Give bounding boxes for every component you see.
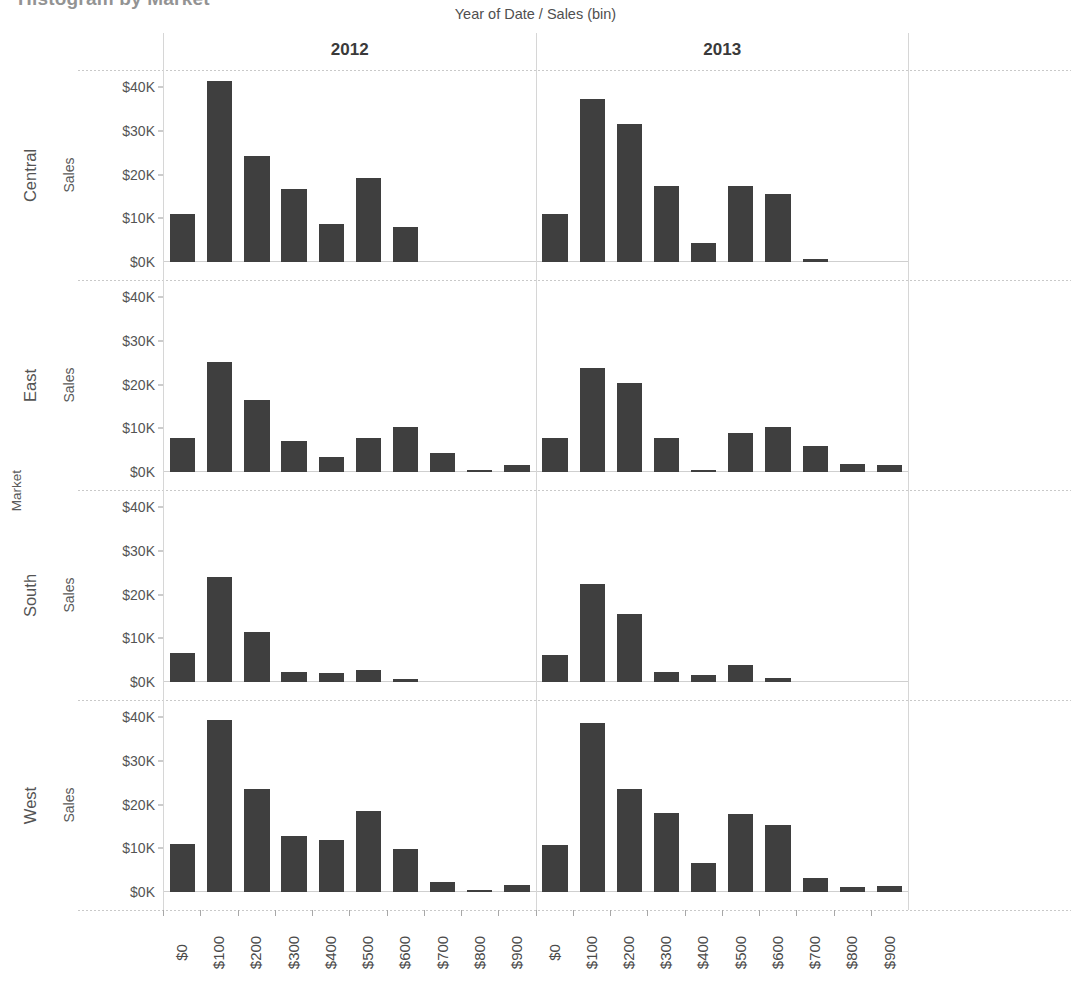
bar[interactable] (504, 885, 529, 892)
bar[interactable] (580, 99, 605, 262)
bar[interactable] (654, 672, 679, 682)
bar[interactable] (765, 427, 790, 472)
bar[interactable] (207, 720, 232, 892)
bar[interactable] (281, 836, 306, 892)
bar[interactable] (691, 243, 716, 262)
bar[interactable] (691, 675, 716, 682)
bar[interactable] (319, 840, 344, 892)
bar-slot (537, 490, 574, 682)
x-tick-mark (275, 910, 312, 917)
x-tick-mark (647, 910, 684, 917)
bar[interactable] (840, 464, 865, 472)
bar[interactable] (356, 438, 381, 472)
bar[interactable] (803, 446, 828, 472)
panel-central-2013 (536, 70, 909, 280)
bar[interactable] (542, 214, 567, 262)
bar[interactable] (765, 194, 790, 263)
bar[interactable] (430, 453, 455, 472)
x-tick-label-text: $0 (546, 944, 563, 961)
bar[interactable] (244, 400, 269, 472)
bar[interactable] (580, 723, 605, 892)
y-axis-title: Sales (59, 490, 79, 700)
bar-slot (759, 70, 796, 262)
bar[interactable] (356, 178, 381, 262)
x-tick-label: $100 (200, 918, 237, 995)
bar[interactable] (840, 887, 865, 892)
bar[interactable] (542, 845, 567, 892)
panel-west-2012 (163, 700, 536, 910)
bar[interactable] (281, 672, 306, 682)
x-tick-label: $100 (573, 918, 610, 995)
bar-slot (313, 70, 350, 262)
bar-slot (834, 280, 871, 472)
bar[interactable] (207, 362, 232, 472)
bar[interactable] (654, 438, 679, 472)
bar[interactable] (244, 156, 269, 262)
column-divider (908, 33, 909, 910)
bar[interactable] (542, 438, 567, 472)
bar[interactable] (617, 614, 642, 682)
bar[interactable] (803, 259, 828, 262)
x-tick-label-text: $300 (285, 936, 302, 969)
bar[interactable] (393, 679, 418, 682)
bar[interactable] (803, 878, 828, 892)
bar[interactable] (467, 890, 492, 892)
bar[interactable] (691, 863, 716, 892)
bar[interactable] (393, 227, 418, 262)
bar[interactable] (691, 470, 716, 472)
bar[interactable] (207, 81, 232, 262)
bar[interactable] (170, 438, 195, 472)
y-tick-label: $0K (130, 464, 155, 480)
bar[interactable] (393, 849, 418, 892)
bar[interactable] (728, 433, 753, 472)
bar[interactable] (467, 470, 492, 472)
bar[interactable] (617, 383, 642, 472)
bar[interactable] (170, 653, 195, 682)
bar[interactable] (281, 189, 306, 262)
bar-slot (238, 70, 275, 262)
bar[interactable] (170, 214, 195, 262)
bar-slot (387, 280, 424, 472)
bar[interactable] (393, 427, 418, 472)
bar[interactable] (319, 457, 344, 472)
bar[interactable] (580, 584, 605, 682)
bar[interactable] (430, 882, 455, 892)
bar[interactable] (207, 577, 232, 682)
bar[interactable] (728, 814, 753, 892)
bar[interactable] (728, 186, 753, 262)
bar[interactable] (319, 673, 344, 682)
bar[interactable] (542, 655, 567, 682)
bar-group (164, 490, 536, 682)
bar-slot (201, 70, 238, 262)
y-tick-label: $0K (130, 674, 155, 690)
y-tick-label: $30K (122, 123, 155, 139)
x-tick-label: $600 (387, 918, 424, 995)
bar[interactable] (580, 368, 605, 472)
bar[interactable] (244, 789, 269, 892)
bar[interactable] (877, 465, 902, 472)
bar[interactable] (617, 789, 642, 892)
bar[interactable] (356, 670, 381, 682)
x-tick-label: $700 (796, 918, 833, 995)
x-tick-label: $800 (461, 918, 498, 995)
bar[interactable] (765, 678, 790, 682)
bar[interactable] (654, 813, 679, 892)
bar[interactable] (617, 124, 642, 262)
bar[interactable] (765, 825, 790, 892)
bar-slot (461, 70, 498, 262)
bar[interactable] (728, 665, 753, 682)
bar[interactable] (319, 224, 344, 262)
x-tick-mark (685, 910, 722, 917)
bar[interactable] (877, 886, 902, 892)
bar[interactable] (356, 811, 381, 892)
bar[interactable] (244, 632, 269, 682)
bar[interactable] (654, 186, 679, 262)
column-field-right: Sales (bin) (547, 6, 616, 22)
x-tick-label: $500 (722, 918, 759, 995)
bar-slot (648, 490, 685, 682)
bar[interactable] (504, 465, 529, 472)
bar[interactable] (170, 844, 195, 892)
bar[interactable] (281, 441, 306, 472)
row-label-text: West (22, 786, 41, 823)
